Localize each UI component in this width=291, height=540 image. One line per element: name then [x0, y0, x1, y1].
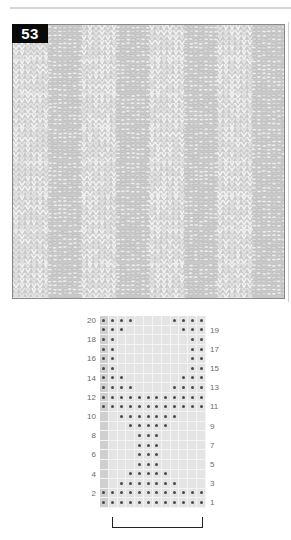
purl-dot-icon: [155, 472, 158, 475]
purl-dot-icon: [138, 463, 141, 466]
purl-dot-icon: [138, 415, 141, 418]
row-number-label: 14: [80, 374, 96, 384]
chart-cell: [118, 460, 127, 470]
purl-dot-icon: [182, 386, 185, 389]
purl-dot-icon: [120, 319, 123, 322]
purl-dot-icon: [191, 338, 194, 341]
chart-cell: [100, 431, 109, 441]
purl-dot-icon: [191, 396, 194, 399]
row-number-label: 20: [80, 316, 96, 326]
chart-cell: [162, 374, 171, 384]
chart-cell: [109, 460, 118, 470]
chart-cell: [100, 383, 109, 393]
purl-dot-icon: [191, 491, 194, 494]
chart-cell: [144, 498, 153, 508]
purl-dot-icon: [182, 319, 185, 322]
chart-cell: [153, 374, 162, 384]
chart-cell: [153, 335, 162, 345]
purl-dot-icon: [191, 357, 194, 360]
purl-dot-icon: [138, 396, 141, 399]
chart-cell: [179, 383, 188, 393]
purl-dot-icon: [200, 367, 203, 370]
purl-dot-icon: [155, 444, 158, 447]
chart-cell: [118, 412, 127, 422]
chart-cell: [144, 354, 153, 364]
chart-cell: [144, 450, 153, 460]
chart-cell: [144, 441, 153, 451]
chart-cell: [153, 431, 162, 441]
chart-cell: [171, 460, 180, 470]
chart-cell: [100, 489, 109, 499]
chart-cell: [144, 402, 153, 412]
chart-cell: [100, 450, 109, 460]
chart-cell: [188, 479, 197, 489]
purl-dot-icon: [120, 376, 123, 379]
chart-cell: [100, 479, 109, 489]
purl-dot-icon: [111, 328, 114, 331]
chart-cell: [109, 498, 118, 508]
chart-cell: [126, 431, 135, 441]
purl-dot-icon: [191, 376, 194, 379]
chart-cell: [171, 393, 180, 403]
chart-cell: [179, 374, 188, 384]
purl-dot-icon: [191, 386, 194, 389]
chart-cell: [162, 479, 171, 489]
chart-cell: [153, 402, 162, 412]
chart-cell: [126, 498, 135, 508]
purl-dot-icon: [111, 396, 114, 399]
chart-cell: [171, 498, 180, 508]
row-number-label: 9: [210, 422, 226, 432]
purl-dot-icon: [147, 415, 150, 418]
chart-cell: [100, 441, 109, 451]
chart-cell: [135, 374, 144, 384]
chart-cell: [126, 393, 135, 403]
purl-dot-icon: [155, 405, 158, 408]
chart-cell: [188, 422, 197, 432]
chart-cell: [109, 412, 118, 422]
chart-cell: [126, 450, 135, 460]
chart-cell: [188, 489, 197, 499]
chart-cell: [126, 489, 135, 499]
purl-dot-icon: [111, 348, 114, 351]
purl-dot-icon: [200, 338, 203, 341]
purl-dot-icon: [111, 367, 114, 370]
purl-dot-icon: [120, 415, 123, 418]
chart-cell: [197, 374, 206, 384]
chart-cell: [179, 393, 188, 403]
chart-cell: [100, 393, 109, 403]
pattern-number-badge: 53: [12, 24, 48, 43]
chart-cell: [153, 412, 162, 422]
purl-dot-icon: [102, 405, 105, 408]
purl-dot-icon: [120, 482, 123, 485]
chart-cell: [118, 470, 127, 480]
chart-cell: [171, 326, 180, 336]
chart-cell: [179, 441, 188, 451]
chart-cell: [109, 393, 118, 403]
chart-cell: [197, 450, 206, 460]
chart-cell: [162, 460, 171, 470]
chart-cell: [153, 345, 162, 355]
chart-cell: [188, 316, 197, 326]
purl-dot-icon: [173, 405, 176, 408]
chart-cell: [188, 431, 197, 441]
chart-cell: [109, 374, 118, 384]
chart-cell: [188, 326, 197, 336]
chart-cell: [118, 479, 127, 489]
chart-cell: [188, 412, 197, 422]
chart-cell: [153, 470, 162, 480]
chart-cell: [179, 460, 188, 470]
chart-cell: [153, 498, 162, 508]
chart-cell: [100, 335, 109, 345]
chart-cell: [188, 393, 197, 403]
chart-cell: [126, 470, 135, 480]
purl-dot-icon: [102, 357, 105, 360]
purl-dot-icon: [164, 472, 167, 475]
purl-dot-icon: [147, 444, 150, 447]
chart-cell: [188, 374, 197, 384]
chart-cell: [153, 441, 162, 451]
purl-dot-icon: [164, 405, 167, 408]
purl-dot-icon: [111, 357, 114, 360]
chart-cell: [144, 335, 153, 345]
row-number-label: 3: [210, 479, 226, 489]
row-number-label: 7: [210, 441, 226, 451]
